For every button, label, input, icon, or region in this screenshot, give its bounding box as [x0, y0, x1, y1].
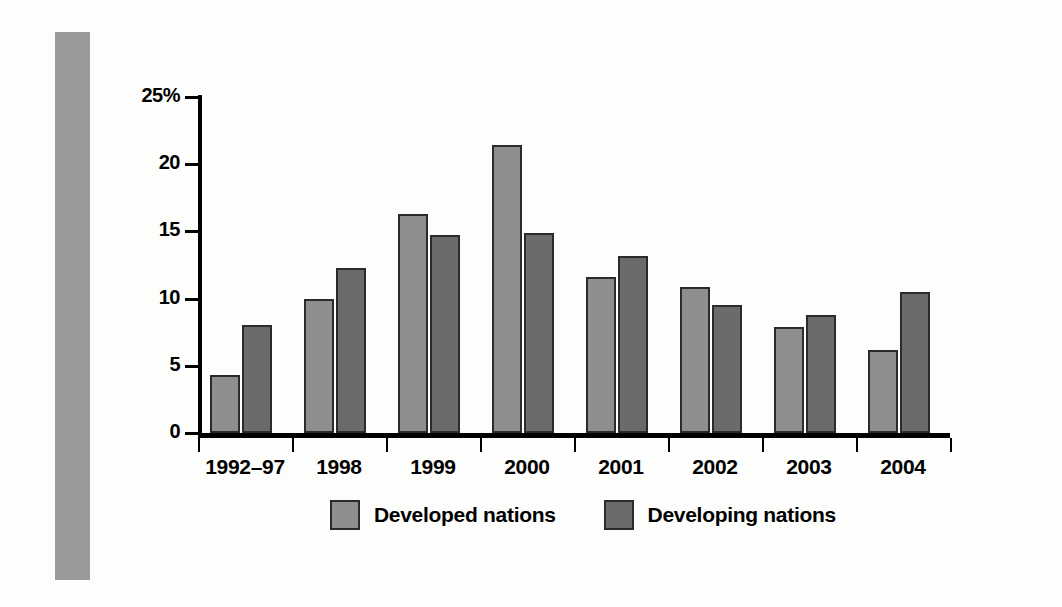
x-tick — [386, 438, 388, 452]
y-tick-label: 20 — [100, 151, 180, 174]
bar-2001-developed — [586, 277, 616, 433]
x-tick — [950, 438, 952, 452]
legend-item-developing[interactable]: Developing nations — [604, 500, 836, 530]
bar-2002-developed — [680, 287, 710, 433]
bar-199297-developed — [210, 375, 240, 433]
legend-item-developed[interactable]: Developed nations — [330, 500, 556, 530]
x-axis-label: 2002 — [668, 455, 762, 479]
y-tick-label: 5 — [100, 353, 180, 376]
bar-1999-developing — [430, 235, 460, 433]
x-tick — [480, 438, 482, 452]
x-tick — [668, 438, 670, 452]
x-axis-label: 2003 — [762, 455, 856, 479]
legend-label: Developed nations — [374, 503, 556, 527]
y-tick-25% — [185, 96, 198, 99]
bar-2004-developing — [900, 292, 930, 433]
x-axis-label: 2001 — [574, 455, 668, 479]
y-tick-label: 15 — [100, 218, 180, 241]
bar-1998-developing — [336, 268, 366, 433]
x-axis-label: 1992–97 — [198, 455, 292, 479]
chart-legend: Developed nationsDeveloping nations — [330, 500, 836, 530]
y-tick-0 — [185, 432, 198, 435]
x-axis-label: 1999 — [386, 455, 480, 479]
bar-2002-developing — [712, 305, 742, 433]
y-tick-5 — [185, 365, 198, 368]
y-tick-label: 10 — [100, 286, 180, 309]
bar-2003-developed — [774, 327, 804, 433]
y-tick-20 — [185, 163, 198, 166]
x-tick — [198, 438, 200, 452]
chart-page: 0510152025% 1992–97199819992000200120022… — [0, 0, 1062, 607]
bar-199297-developing — [242, 325, 272, 433]
y-axis-line — [198, 95, 202, 435]
bar-1999-developed — [398, 214, 428, 433]
bar-1998-developed — [304, 299, 334, 433]
legend-swatch-icon — [604, 500, 634, 530]
y-tick-label: 0 — [100, 420, 180, 443]
x-axis-label: 2004 — [856, 455, 950, 479]
legend-swatch-icon — [330, 500, 360, 530]
y-tick-10 — [185, 298, 198, 301]
bar-2004-developed — [868, 350, 898, 433]
x-tick — [856, 438, 858, 452]
bar-2000-developed — [492, 145, 522, 433]
y-tick-15 — [185, 230, 198, 233]
x-tick — [574, 438, 576, 452]
y-tick-label: 25% — [100, 84, 180, 107]
bar-2000-developing — [524, 233, 554, 433]
x-tick — [762, 438, 764, 452]
x-axis-label: 2000 — [480, 455, 574, 479]
legend-label: Developing nations — [648, 503, 836, 527]
bar-2001-developing — [618, 256, 648, 433]
x-tick — [292, 438, 294, 452]
bar-2003-developing — [806, 315, 836, 433]
x-axis-label: 1998 — [292, 455, 386, 479]
